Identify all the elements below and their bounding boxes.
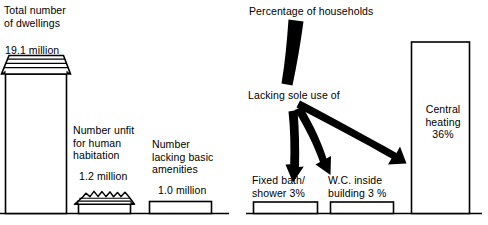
value-lacking-basic-amenities: 1.0 million bbox=[158, 184, 206, 197]
figure-root: Total number of dwellings 19.1 million N… bbox=[0, 0, 488, 225]
bar-unfit-for-human-habitation bbox=[75, 191, 135, 213]
value-total-dwellings: 19.1 million bbox=[5, 44, 59, 57]
bar-total-dwellings-roof bbox=[2, 56, 71, 75]
subheading-lacking-sole-use-of: Lacking sole use of bbox=[248, 89, 340, 102]
figure-artwork bbox=[0, 0, 488, 225]
bar-total-dwellings-body bbox=[6, 74, 67, 214]
label-unfit-for-human-habitation: Number unfit for human habitation bbox=[73, 124, 134, 162]
bar-total-dwellings bbox=[2, 56, 71, 214]
label-fixed-bath-shower: Fixed bath/ shower 3% bbox=[252, 174, 305, 199]
bar-fixed-bath-shower bbox=[254, 202, 318, 214]
label-central-heating: Central heating 36% bbox=[416, 103, 470, 141]
label-wc-inside-building: W.C. inside building 3 % bbox=[328, 174, 386, 199]
arrow-percentage-to-lacking bbox=[282, 20, 304, 86]
bar-unfit-body bbox=[79, 204, 131, 213]
label-total-dwellings: Total number of dwellings bbox=[4, 4, 66, 29]
heading-percentage-of-households: Percentage of households bbox=[249, 5, 373, 18]
value-unfit-for-human-habitation: 1.2 million bbox=[79, 170, 127, 183]
bar-lacking-basic-amenities-body bbox=[150, 202, 212, 214]
bar-unfit-broken-roof bbox=[75, 191, 135, 204]
label-lacking-basic-amenities: Number lacking basic amenities bbox=[152, 138, 213, 176]
bar-wc-inside-building bbox=[331, 202, 394, 214]
bar-lacking-basic-amenities bbox=[150, 202, 212, 214]
